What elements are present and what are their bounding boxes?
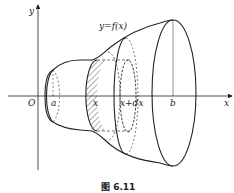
upper-profile-curve xyxy=(45,20,173,96)
tick-label-b: b xyxy=(170,98,176,108)
tick-label-x: x xyxy=(93,98,98,108)
curve-label: y=f(x) xyxy=(98,21,128,31)
origin-label: O xyxy=(28,98,36,108)
figure-caption: 图 6.11 xyxy=(101,182,135,192)
tick-label-a: a xyxy=(51,98,56,108)
x-axis-label: x xyxy=(224,98,229,108)
solid-of-revolution-diagram: y x O a x x+dx b y=f(x) 图 6.11 xyxy=(0,0,234,193)
tick-label-x-plus-dx: x+dx xyxy=(120,98,143,108)
cross-section-b xyxy=(152,20,196,166)
y-axis-label: y xyxy=(28,6,35,16)
